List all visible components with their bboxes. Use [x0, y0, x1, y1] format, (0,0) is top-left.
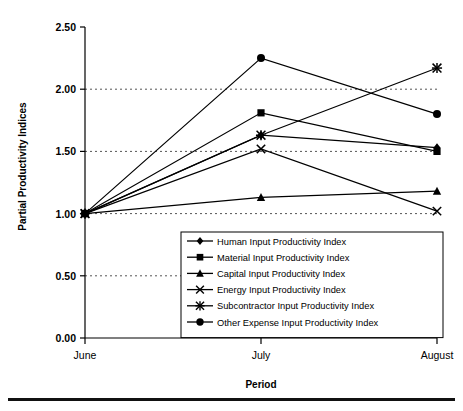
y-tick-label: 1.50 [56, 145, 77, 157]
data-point-marker [81, 210, 89, 218]
bottom-divider [8, 398, 455, 401]
legend-marker-icon [197, 254, 204, 261]
x-axis-title: Period [245, 379, 276, 390]
series-line [85, 68, 437, 214]
chart-figure: 0.000.501.001.502.002.50JuneJulyAugustPa… [0, 0, 463, 411]
legend-label: Human Input Productivity Index [217, 237, 347, 247]
data-point-marker [257, 109, 264, 116]
legend-label: Other Expense Input Productivity Index [217, 318, 379, 328]
y-tick-label: 1.00 [56, 208, 77, 220]
y-tick-label: 2.50 [56, 21, 77, 33]
data-point-marker [433, 148, 440, 155]
y-tick-label: 2.00 [56, 83, 77, 95]
legend-label: Subcontractor Input Productivity Index [217, 301, 374, 311]
series-line [85, 135, 437, 213]
series-line [85, 149, 437, 214]
x-tick-label: August [421, 349, 454, 361]
x-tick-label: June [74, 349, 97, 361]
legend-label: Material Input Productivity Index [217, 253, 350, 263]
data-point-marker [433, 110, 441, 118]
x-tick-label: July [252, 349, 271, 361]
legend-label: Energy Input Productivity Index [217, 285, 346, 295]
y-axis-title: Partial Productivity Indices [17, 102, 28, 231]
productivity-line-chart: 0.000.501.001.502.002.50JuneJulyAugustPa… [0, 0, 463, 411]
data-point-marker [257, 54, 265, 62]
legend-label: Capital Input Productivity Index [217, 269, 346, 279]
legend-marker-icon [196, 318, 203, 325]
y-tick-label: 0.50 [56, 270, 77, 282]
y-tick-label: 0.00 [56, 332, 77, 344]
